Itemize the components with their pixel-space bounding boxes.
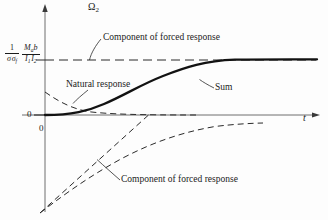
annotation-forced-response-bottom: Component of forced response	[121, 175, 238, 185]
annotation-sum: Sum	[215, 83, 232, 93]
y-axis-title-subscript: 2	[95, 6, 99, 14]
amplitude-factor-one-numerator: 1	[8, 44, 16, 53]
amplitude-factor-two-numerator: Mab	[22, 44, 39, 54]
x-axis-title: t	[303, 113, 306, 123]
figure-container: Ω2 t 0 0 1 σ σf Mab I1 I2 Component of f…	[0, 0, 328, 220]
curve-forced-curved	[40, 123, 263, 213]
amplitude-factor-one: 1 σ σf	[5, 44, 19, 64]
asymptote-amplitude-label: 1 σ σf Mab I1 I2	[5, 44, 40, 65]
annotation-forced-response-top: Component of forced response	[103, 33, 220, 43]
amplitude-factor-two: Mab I1 I2	[22, 44, 39, 65]
y-axis-arrowhead	[42, 4, 47, 12]
x-axis-arrowhead	[312, 112, 320, 117]
amplitude-factor-two-denominator: I1 I2	[23, 55, 39, 65]
origin-zero-label: 0	[39, 124, 44, 133]
amplitude-factor-one-denominator: σ σf	[5, 54, 19, 64]
leader-forced-bottom	[97, 160, 120, 181]
leader-sum	[200, 80, 215, 89]
y-axis-title: Ω2	[88, 2, 99, 14]
y-axis-zero-label: 0	[27, 110, 32, 119]
curve-forced-straight	[40, 115, 149, 213]
annotation-natural-response: Natural response	[66, 80, 130, 90]
leader-natural	[73, 90, 88, 104]
leader-forced-top	[90, 39, 102, 60]
